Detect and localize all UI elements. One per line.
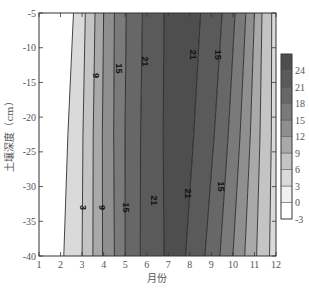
colorbar-swatch: [281, 153, 292, 170]
svg-text:15: 15: [216, 182, 226, 192]
colorbar-tick-label: 18: [295, 98, 305, 109]
x-tick-label: 9: [209, 259, 214, 270]
svg-text:15: 15: [114, 64, 124, 74]
contour-band: [140, 13, 164, 256]
x-tick-label: 3: [80, 259, 85, 270]
y-tick-label: -20: [23, 112, 36, 123]
colorbar-swatch: [281, 71, 292, 88]
x-tick-label: 4: [101, 259, 106, 270]
y-tick-label: -15: [23, 77, 36, 88]
svg-text:9: 9: [91, 73, 101, 78]
contour-label: 9: [97, 205, 107, 210]
colorbar-swatch: [281, 120, 292, 137]
y-tick-label: -40: [23, 251, 36, 262]
x-tick-label: 5: [123, 259, 128, 270]
svg-text:3: 3: [78, 205, 88, 210]
x-axis-title: 月份: [147, 273, 167, 284]
x-tick-label: 6: [144, 259, 149, 270]
contour-band: [114, 13, 127, 256]
contour-label: 3: [78, 205, 88, 210]
y-axis-title: 土壤深度（cm）: [3, 96, 15, 171]
contour-label: 15: [213, 50, 223, 60]
colorbar-swatch: [281, 203, 292, 220]
colorbar: 24211815129630-3: [281, 54, 305, 225]
y-tick-label: -35: [23, 216, 36, 227]
chart-canvas: 9152121153915212115 123456789101112 -5-1…: [0, 0, 309, 291]
colorbar-swatch: [281, 170, 292, 187]
x-tick-label: 2: [58, 259, 63, 270]
svg-text:21: 21: [188, 50, 198, 60]
colorbar-tick-label: 21: [295, 82, 305, 93]
colorbar-tick-label: 12: [295, 131, 305, 142]
x-tick-label: 12: [271, 259, 281, 270]
contour-label: 15: [121, 202, 131, 212]
colorbar-tick-label: -3: [295, 214, 303, 225]
y-tick-label: -25: [23, 146, 36, 157]
contour-label: 21: [149, 195, 159, 205]
contour-label: 15: [216, 182, 226, 192]
x-tick-label: 10: [228, 259, 238, 270]
contour-label: 21: [140, 57, 150, 67]
colorbar-swatch: [281, 137, 292, 154]
x-tick-label: 8: [187, 259, 192, 270]
contour-band: [102, 13, 114, 256]
svg-text:21: 21: [183, 189, 193, 199]
contour-band: [125, 13, 143, 256]
svg-text:9: 9: [97, 205, 107, 210]
contour-label: 21: [183, 189, 193, 199]
colorbar-swatch: [281, 87, 292, 104]
y-tick-label: -30: [23, 181, 36, 192]
colorbar-swatch: [281, 186, 292, 203]
svg-text:15: 15: [121, 202, 131, 212]
colorbar-tick-label: 0: [295, 197, 300, 208]
colorbar-swatch: [281, 104, 292, 121]
contour-label: 21: [188, 50, 198, 60]
svg-text:21: 21: [149, 195, 159, 205]
y-tick-label: -10: [23, 42, 36, 53]
colorbar-tick-label: 9: [295, 148, 300, 159]
contour-chart: 9152121153915212115 123456789101112 -5-1…: [0, 0, 309, 291]
colorbar-tick-label: 15: [295, 115, 305, 126]
svg-text:15: 15: [213, 50, 223, 60]
svg-text:21: 21: [140, 57, 150, 67]
contour-label: 15: [114, 64, 124, 74]
colorbar-tick-label: 6: [295, 164, 300, 175]
contour-label: 9: [91, 73, 101, 78]
colorbar-tick-label: 3: [295, 181, 300, 192]
x-tick-label: 7: [166, 259, 171, 270]
y-tick-label: -5: [28, 8, 36, 19]
x-tick-label: 11: [250, 259, 260, 270]
colorbar-swatch: [281, 54, 292, 71]
x-tick-label: 1: [37, 259, 42, 270]
colorbar-tick-label: 24: [295, 65, 305, 76]
